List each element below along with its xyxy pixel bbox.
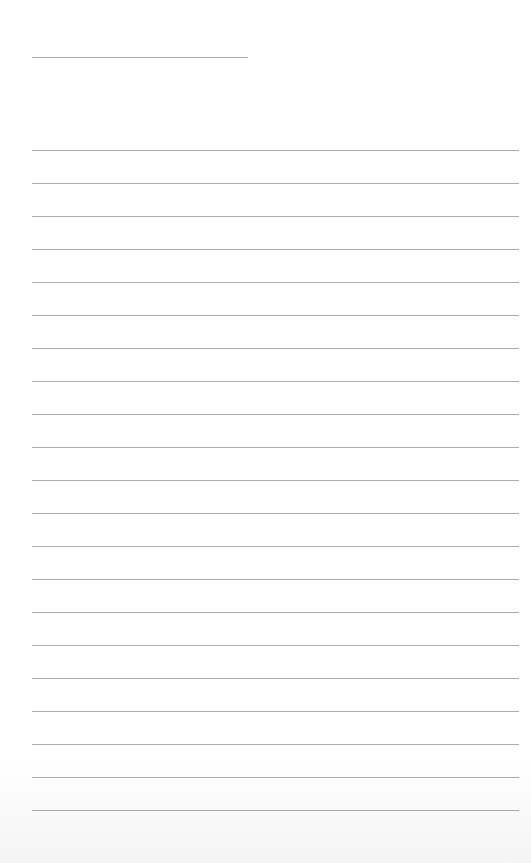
ruled-line	[32, 579, 519, 580]
ruled-line	[32, 810, 519, 811]
header-name-line	[32, 57, 248, 58]
ruled-line	[32, 744, 519, 745]
ruled-line	[32, 150, 519, 151]
ruled-line	[32, 282, 519, 283]
ruled-line	[32, 546, 519, 547]
ruled-line	[32, 348, 519, 349]
ruled-line	[32, 678, 519, 679]
ruled-line	[32, 480, 519, 481]
ruled-line	[32, 381, 519, 382]
ruled-line	[32, 249, 519, 250]
ruled-line	[32, 216, 519, 217]
ruled-line	[32, 513, 519, 514]
ruled-line	[32, 645, 519, 646]
ruled-line	[32, 447, 519, 448]
ruled-line	[32, 414, 519, 415]
ruled-line	[32, 612, 519, 613]
ruled-line	[32, 777, 519, 778]
ruled-line	[32, 315, 519, 316]
ruled-line	[32, 711, 519, 712]
lined-paper-page	[0, 0, 531, 863]
ruled-line	[32, 183, 519, 184]
